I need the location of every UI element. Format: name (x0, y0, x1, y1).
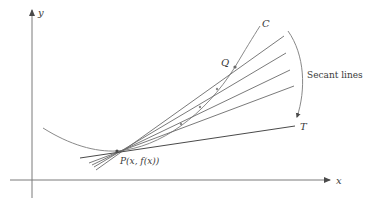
secant-line-4 (89, 86, 294, 163)
point-q-label: Q (221, 57, 229, 68)
secant-lines-label: Secant lines (307, 70, 363, 80)
point-p (115, 149, 118, 152)
curve-c (43, 26, 260, 151)
point-intermediate-2 (199, 106, 201, 108)
point-intermediate-1 (216, 88, 218, 90)
point-intermediate-3 (180, 123, 182, 125)
tangent-line-t (80, 126, 295, 158)
approach-arrow (288, 31, 303, 117)
y-axis-label: y (37, 7, 44, 18)
curve-label-c: C (262, 18, 270, 29)
secant-tangent-diagram: y x C Q P(x, f(x)) T Secant lines (0, 0, 372, 205)
point-p-label: P(x, f(x)) (119, 156, 160, 166)
point-q (233, 65, 236, 68)
secant-lines (89, 36, 294, 170)
tangent-label-t: T (300, 121, 308, 132)
x-axis-label: x (336, 175, 342, 186)
